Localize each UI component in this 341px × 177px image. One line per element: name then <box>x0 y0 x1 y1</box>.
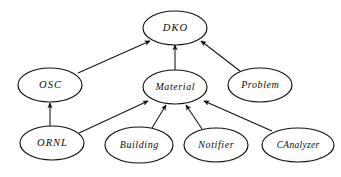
node-canalyzer[interactable]: CAnalyzer <box>262 128 334 162</box>
edge-canalyzer-to-material <box>204 101 272 131</box>
class-hierarchy-diagram: DKOOSCMaterialProblemORNLBuildingNotifie… <box>0 0 341 177</box>
node-dko[interactable]: DKO <box>143 11 207 45</box>
diagram-canvas: DKOOSCMaterialProblemORNLBuildingNotifie… <box>0 0 341 177</box>
node-building[interactable]: Building <box>105 127 173 163</box>
node-problem[interactable]: Problem <box>228 68 292 102</box>
edge-building-to-material <box>152 105 166 128</box>
edge-osc-to-dko <box>78 41 150 73</box>
edge-notifier-to-material <box>186 105 202 129</box>
node-material-label: Material <box>154 81 195 92</box>
node-osc-label: OSC <box>39 79 62 90</box>
node-notifier[interactable]: Notifier <box>184 128 248 162</box>
node-building-label: Building <box>120 139 159 150</box>
edge-problem-to-dko <box>201 41 240 71</box>
node-ornl[interactable]: ORNL <box>20 126 84 160</box>
node-osc[interactable]: OSC <box>18 68 82 102</box>
node-layer: DKOOSCMaterialProblemORNLBuildingNotifie… <box>18 11 334 163</box>
node-notifier-label: Notifier <box>197 139 234 150</box>
node-material[interactable]: Material <box>143 70 207 104</box>
node-canalyzer-label: CAnalyzer <box>277 140 320 150</box>
node-dko-label: DKO <box>162 22 188 33</box>
node-problem-label: Problem <box>240 79 279 90</box>
node-ornl-label: ORNL <box>37 137 68 148</box>
